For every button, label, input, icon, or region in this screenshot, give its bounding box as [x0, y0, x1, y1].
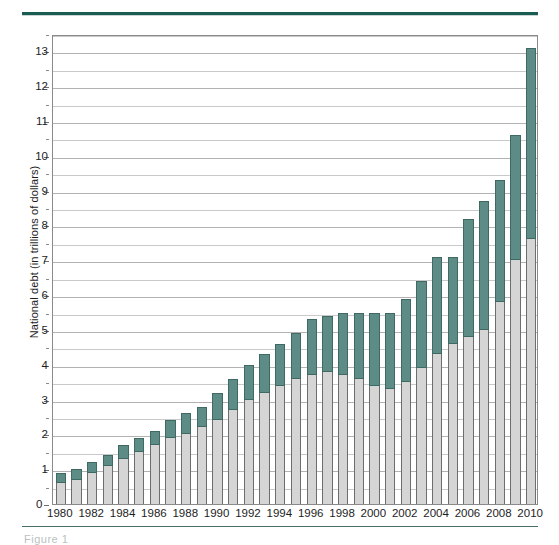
top-rule-shadow [22, 15, 538, 16]
bar-upper-segment [369, 313, 379, 386]
bar-1995 [291, 333, 301, 504]
bar-1987 [165, 420, 175, 504]
bar-1996 [307, 319, 317, 504]
bar-1981 [71, 469, 81, 504]
bar-2009 [510, 135, 520, 504]
bar-1998 [338, 313, 348, 504]
bar-2002 [401, 299, 411, 504]
y-tick-label: 13 [4, 45, 48, 57]
y-tick-label: 11 [4, 115, 48, 127]
bar-1990 [212, 393, 222, 504]
y-axis-tick-marks: 12345678910111213 [0, 35, 48, 505]
y-tick-label: 3 [4, 394, 48, 406]
y-tick-label: 2 [4, 428, 48, 440]
bar-upper-segment [307, 319, 317, 375]
bar-upper-segment [259, 354, 269, 392]
bar-upper-segment [134, 438, 144, 452]
y-tick-label: 10 [4, 150, 48, 162]
x-axis-tick-labels: 1980198219841986198819901992199419961998… [52, 507, 538, 527]
bar-upper-segment [165, 420, 175, 437]
y-tick-label: 5 [4, 324, 48, 336]
y-tick-label: 1 [4, 463, 48, 475]
y-tick-mark [46, 209, 49, 210]
y-tick-mark [46, 453, 49, 454]
bar-1991 [228, 379, 238, 504]
y-tick-mark [46, 418, 49, 419]
bar-1988 [181, 413, 191, 504]
bar-upper-segment [338, 313, 348, 376]
bar-1983 [103, 455, 113, 504]
figure-caption: Figure 1 [24, 533, 68, 545]
y-tick-mark [46, 314, 49, 315]
bar-upper-segment [479, 201, 489, 330]
bar-1994 [275, 344, 285, 504]
y-tick-mark [46, 174, 49, 175]
bar-2003 [416, 281, 426, 504]
plot-area [52, 35, 538, 505]
bar-upper-segment [354, 313, 364, 379]
y-tick-mark [46, 105, 49, 106]
y-tick-mark [46, 244, 49, 245]
bar-2001 [385, 313, 395, 504]
bar-2008 [495, 180, 505, 504]
bar-1985 [134, 438, 144, 504]
bar-upper-segment [118, 445, 128, 459]
bottom-decorative-rule [22, 526, 538, 527]
y-tick-label: 4 [4, 359, 48, 371]
bar-1989 [197, 407, 207, 504]
y-tick-mark [46, 488, 49, 489]
y-tick-mark [44, 505, 49, 506]
bar-2005 [448, 257, 458, 504]
bar-1986 [150, 431, 160, 504]
bar-upper-segment [228, 379, 238, 410]
bar-upper-segment [463, 219, 473, 337]
bar-1999 [354, 313, 364, 504]
y-tick-mark [46, 35, 49, 36]
y-tick-label: 6 [4, 289, 48, 301]
bar-upper-segment [56, 473, 66, 483]
y-tick-label: 8 [4, 219, 48, 231]
bar-2007 [479, 201, 489, 504]
bar-2000 [369, 313, 379, 504]
y-tick-mark [46, 70, 49, 71]
bar-upper-segment [275, 344, 285, 386]
bar-upper-segment [495, 180, 505, 302]
bar-1984 [118, 445, 128, 504]
y-tick-label: 9 [4, 185, 48, 197]
bar-2004 [432, 257, 442, 504]
bar-series-group [53, 36, 537, 504]
bar-upper-segment [103, 455, 113, 465]
y-tick-mark [46, 279, 49, 280]
bar-upper-segment [150, 431, 160, 445]
bar-upper-segment [526, 48, 536, 239]
bar-upper-segment [197, 407, 207, 428]
y-tick-mark [46, 139, 49, 140]
y-tick-label: 7 [4, 254, 48, 266]
bar-1997 [322, 316, 332, 504]
bar-2006 [463, 219, 473, 504]
bar-upper-segment [322, 316, 332, 372]
bar-upper-segment [212, 393, 222, 421]
bar-upper-segment [510, 135, 520, 260]
bar-upper-segment [181, 413, 191, 434]
y-tick-label: 12 [4, 80, 48, 92]
bar-upper-segment [291, 333, 301, 378]
bar-upper-segment [448, 257, 458, 344]
y-tick-mark [46, 383, 49, 384]
bar-upper-segment [432, 257, 442, 354]
bar-1992 [244, 365, 254, 504]
bar-upper-segment [385, 313, 395, 390]
bar-upper-segment [71, 469, 81, 479]
y-tick-mark [46, 348, 49, 349]
bar-1982 [87, 462, 97, 504]
bar-upper-segment [244, 365, 254, 400]
bar-upper-segment [401, 299, 411, 383]
bar-1993 [259, 354, 269, 504]
bar-1980 [56, 473, 66, 504]
bar-upper-segment [416, 281, 426, 368]
bar-upper-segment [87, 462, 97, 472]
x-tick-label-2010: 2010 [510, 507, 550, 519]
bar-2010 [526, 48, 536, 504]
